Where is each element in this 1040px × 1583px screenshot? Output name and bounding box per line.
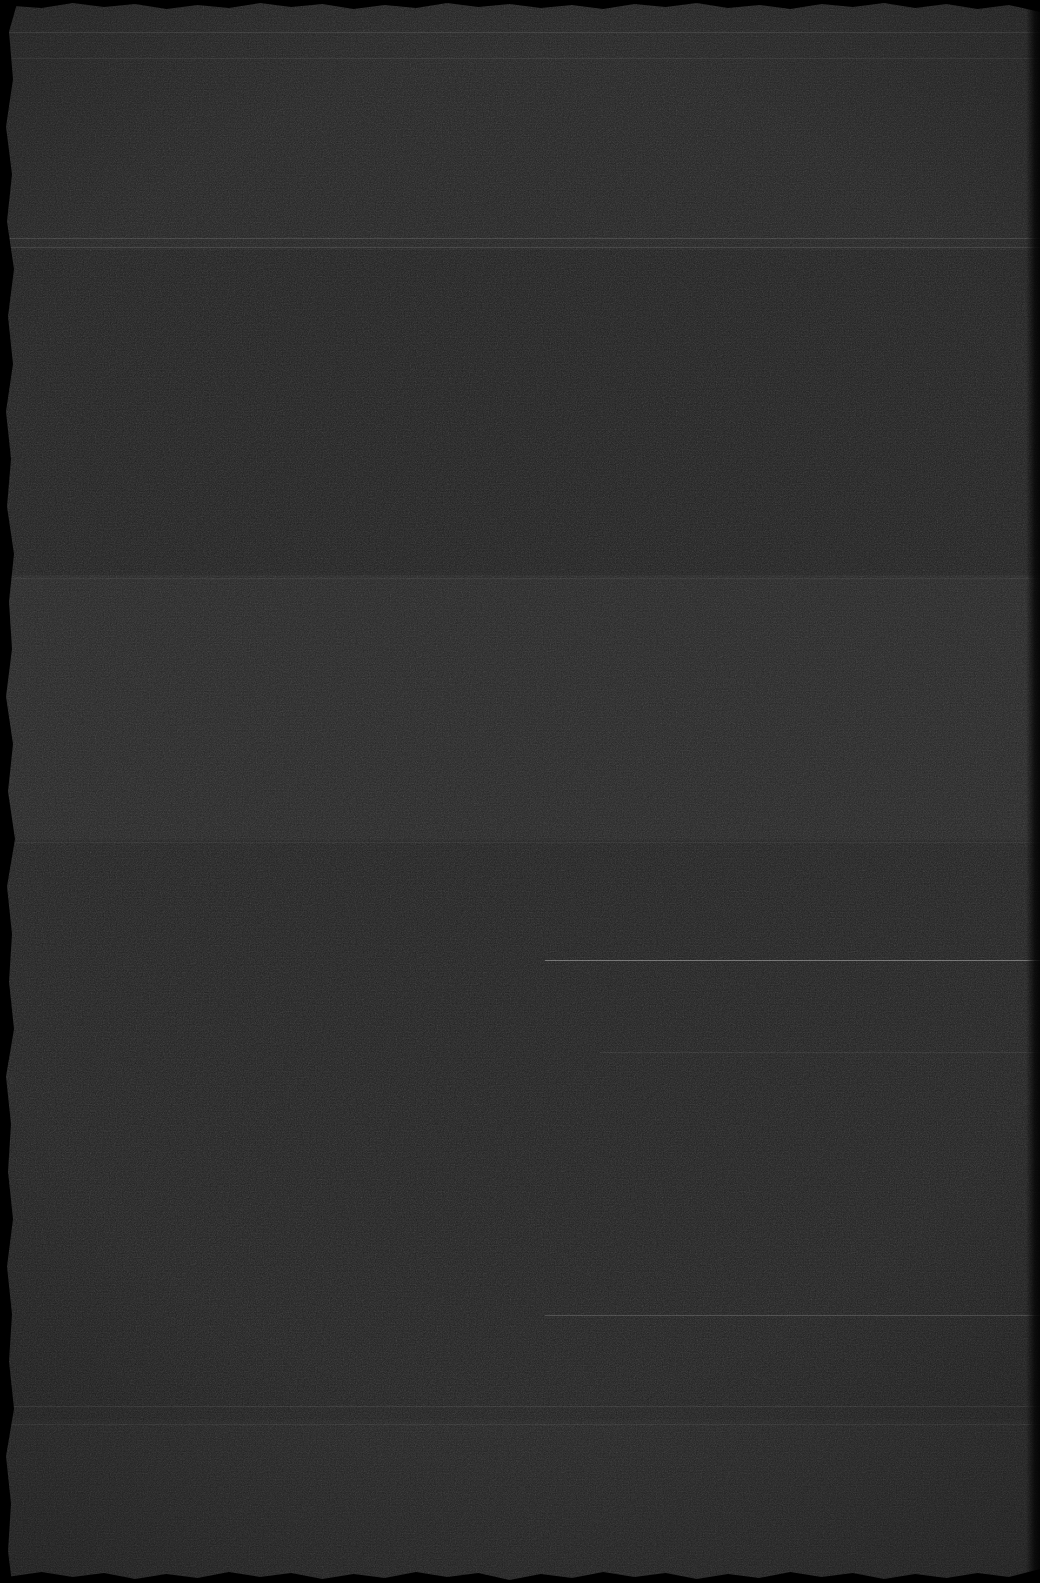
band-lower-middle	[0, 840, 1040, 1420]
rule-f	[0, 842, 1040, 843]
band-middle	[0, 575, 1040, 840]
rule-a	[0, 32, 1040, 33]
rule-i	[545, 1315, 1040, 1316]
band-upper-middle	[0, 250, 1040, 575]
band-bottom	[0, 1420, 1040, 1583]
rule-d	[0, 247, 1040, 248]
scanned-image-surface	[0, 0, 1040, 1583]
rule-j	[0, 1406, 1040, 1407]
band-top	[0, 0, 1040, 250]
rule-g	[545, 960, 1040, 961]
rule-k	[0, 1424, 1040, 1425]
rule-e	[0, 578, 1040, 579]
rule-b	[0, 58, 1040, 59]
rule-c	[0, 238, 1040, 239]
rule-h	[600, 1052, 1040, 1053]
